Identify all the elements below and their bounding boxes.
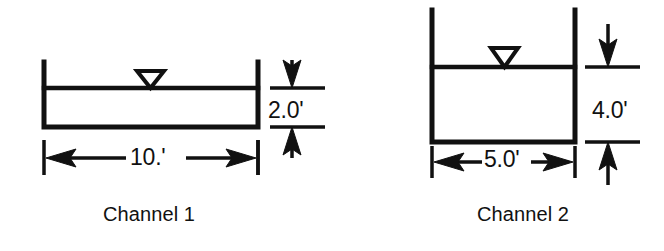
channel-1-depth-label: 2.0' (268, 99, 304, 122)
channel-2-depth-label: 4.0' (592, 99, 628, 122)
channel-2-section-outline (432, 10, 575, 142)
channel-2-width-label: 5.0' (484, 148, 520, 171)
channel-2-water-surface-triangle-icon (491, 48, 518, 67)
figure-root: 10.' 2.0' Channel 1 5.0' 4.0' Channel 2 (0, 0, 664, 251)
channel-1-water-surface-triangle-icon (137, 71, 164, 88)
channel-1-caption: Channel 1 (103, 204, 195, 224)
channel-2-caption: Channel 2 (477, 204, 569, 224)
channel-1-width-label: 10.' (130, 146, 166, 169)
